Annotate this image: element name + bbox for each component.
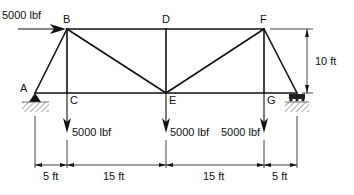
member-AB [35,29,67,93]
load-label-c: 5000 lbf [72,126,112,138]
node-label-b: B [63,13,70,25]
node-label-g: G [267,94,276,106]
node-label-d: D [162,13,170,25]
dim-label-ac: 5 ft [43,170,58,182]
roller-support-icon [285,94,309,112]
load-arrow-g: 5000 lbf [221,93,268,138]
node-label-c: C [70,94,78,106]
node-label-a: A [20,82,28,94]
dim-label-eg: 15 ft [203,170,224,182]
member-EF [166,29,264,93]
pin-support-icon [22,93,49,112]
truss-members [35,29,297,93]
load-label-b: 5000 lbf [2,9,42,21]
node-label-e: E [169,94,176,106]
dim-label-gh: 5 ft [272,170,287,182]
load-label-e: 5000 lbf [170,126,210,138]
node-label-f: F [260,13,267,25]
truss-diagram: A B C D E F G 5000 lbf 5000 lbf 5000 lb [0,0,354,195]
load-arrow-b: 5000 lbf [2,9,66,34]
dim-label-ce: 15 ft [103,170,124,182]
dim-label-height: 10 ft [315,55,336,67]
load-label-g: 5000 lbf [221,126,261,138]
member-BE [67,29,166,93]
member-FH [264,29,297,93]
